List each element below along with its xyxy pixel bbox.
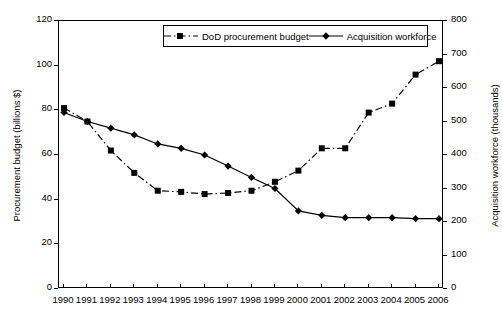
x-axis-tick-mark <box>344 284 345 288</box>
x-axis-tick-mark <box>227 284 228 288</box>
data-point-marker <box>224 162 231 169</box>
legend-swatch-solid-diamond <box>309 31 343 41</box>
data-point-marker <box>342 145 348 151</box>
legend-entry-budget: DoD procurement budget <box>164 31 309 42</box>
y-axis-left-tick-mark <box>54 243 58 244</box>
y-axis-left-tick-label: 60 <box>12 147 52 158</box>
y-axis-right-tick-mark <box>443 255 447 256</box>
data-point-marker <box>131 131 138 138</box>
legend-swatch-dashed-square <box>164 31 198 41</box>
plot-area <box>58 20 443 288</box>
data-point-marker <box>248 174 255 181</box>
data-point-marker <box>436 58 442 64</box>
x-axis-tick-mark <box>180 284 181 288</box>
y-axis-right-tick-label: 0 <box>451 281 491 292</box>
y-axis-left-tick-label: 80 <box>12 102 52 113</box>
x-axis-tick-mark <box>251 284 252 288</box>
y-axis-right-tick-mark <box>443 221 447 222</box>
y-axis-right-tick-label: 600 <box>451 80 491 91</box>
data-point-marker <box>319 145 325 151</box>
x-axis-tick-mark <box>368 284 369 288</box>
legend-entry-workforce: Acquisition workforce <box>309 31 437 42</box>
data-point-marker <box>365 214 372 221</box>
data-point-marker <box>272 179 278 185</box>
y-axis-right-tick-mark <box>443 188 447 189</box>
y-axis-right-tick-mark <box>443 121 447 122</box>
y-axis-right-tick-label: 500 <box>451 114 491 125</box>
x-axis-tick-mark <box>391 284 392 288</box>
y-axis-left-tick-mark <box>54 20 58 21</box>
data-point-marker <box>318 212 325 219</box>
x-axis-tick-mark <box>297 284 298 288</box>
y-axis-left-tick-label: 120 <box>12 13 52 24</box>
data-point-marker <box>342 214 349 221</box>
x-axis-tick-mark <box>274 284 275 288</box>
data-point-marker <box>154 140 161 147</box>
legend-label-budget: DoD procurement budget <box>202 31 309 42</box>
data-point-marker <box>201 151 208 158</box>
data-point-marker <box>295 168 301 174</box>
data-point-marker <box>435 215 442 222</box>
x-axis-tick-mark <box>321 284 322 288</box>
y-axis-right-tick-label: 200 <box>451 214 491 225</box>
x-axis-tick-mark <box>415 284 416 288</box>
chart-legend: DoD procurement budget Acquisition workf… <box>163 25 428 47</box>
y-axis-left-tick-label: 0 <box>12 281 52 292</box>
y-axis-right-tick-mark <box>443 20 447 21</box>
data-point-marker <box>107 125 114 132</box>
y-axis-left-tick-label: 20 <box>12 236 52 247</box>
x-axis-tick-mark <box>438 284 439 288</box>
legend-label-workforce: Acquisition workforce <box>347 31 437 42</box>
y-axis-left-tick-label: 100 <box>12 58 52 69</box>
y-axis-right-tick-label: 100 <box>451 248 491 259</box>
y-axis-right-tick-mark <box>443 288 447 289</box>
y-axis-left-tick-label: 40 <box>12 192 52 203</box>
data-point-marker <box>131 170 137 176</box>
data-point-marker <box>108 148 114 154</box>
x-axis-tick-mark <box>86 284 87 288</box>
data-point-marker <box>412 215 419 222</box>
data-point-marker <box>178 189 184 195</box>
y-axis-left-tick-mark <box>54 154 58 155</box>
series-line-diamond <box>64 112 439 218</box>
y-axis-left-tick-mark <box>54 288 58 289</box>
x-axis-tick-mark <box>110 284 111 288</box>
y-axis-right-tick-mark <box>443 54 447 55</box>
y-axis-left-tick-mark <box>54 199 58 200</box>
x-axis-tick-mark <box>63 284 64 288</box>
y-axis-right-tick-mark <box>443 154 447 155</box>
data-point-marker <box>155 188 161 194</box>
y-axis-right-tick-label: 300 <box>451 181 491 192</box>
data-point-marker <box>389 214 396 221</box>
x-axis-tick-mark <box>133 284 134 288</box>
x-axis-tick-label: 2006 <box>418 294 458 305</box>
y-axis-right-tick-mark <box>443 87 447 88</box>
y-axis-right-tick-label: 400 <box>451 147 491 158</box>
data-point-marker <box>413 72 419 78</box>
y-axis-left-tick-mark <box>54 109 58 110</box>
y-axis-right-tick-label: 800 <box>451 13 491 24</box>
data-point-marker <box>366 110 372 116</box>
data-point-marker <box>389 101 395 107</box>
x-axis-tick-mark <box>157 284 158 288</box>
data-point-marker <box>202 191 208 197</box>
data-point-marker <box>178 145 185 152</box>
x-axis-tick-mark <box>204 284 205 288</box>
data-point-marker <box>225 190 231 196</box>
chart-container: Procurement budget (billions $) Acquisit… <box>0 0 502 315</box>
y-axis-right-tick-label: 700 <box>451 47 491 58</box>
data-point-marker <box>249 188 255 194</box>
series-layer <box>59 21 444 289</box>
y-axis-left-tick-mark <box>54 65 58 66</box>
